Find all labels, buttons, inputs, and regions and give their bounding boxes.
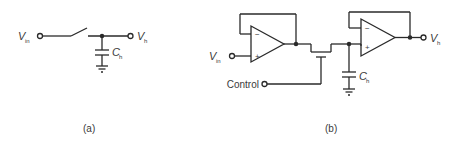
svg-text:h: h <box>119 54 122 60</box>
opamp1-minus: − <box>255 30 260 39</box>
svg-text:h: h <box>437 40 440 46</box>
opamp1-plus: + <box>255 52 260 61</box>
control-label: Control <box>227 79 259 90</box>
vin-terminal-a <box>38 34 43 39</box>
svg-text:in: in <box>216 58 221 64</box>
caption-a: (a) <box>83 123 95 134</box>
opamp2-minus: − <box>365 24 370 33</box>
svg-text:h: h <box>144 38 147 44</box>
vin-terminal-b <box>230 54 235 59</box>
opamp2-plus: + <box>365 43 370 52</box>
svg-text:in: in <box>25 38 30 44</box>
circuit-figure: V in V h C h (a) − + − + V in Control V … <box>0 0 461 142</box>
control-terminal <box>262 82 267 87</box>
caption-b: (b) <box>325 123 337 134</box>
vh-terminal-a <box>128 34 133 39</box>
switch <box>71 28 87 36</box>
vh-terminal-b <box>421 35 426 40</box>
svg-text:h: h <box>366 78 369 84</box>
